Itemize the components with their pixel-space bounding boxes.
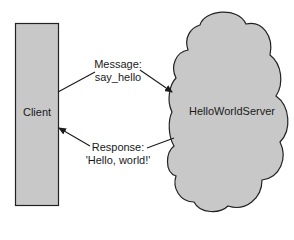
client-label-text: Client bbox=[23, 106, 51, 118]
server-label: HelloWorldServer bbox=[180, 105, 284, 118]
request-label-line2: say_hello bbox=[88, 71, 148, 84]
request-label-line1: Message: bbox=[88, 58, 148, 71]
response-label-line2: 'Hello, world!' bbox=[82, 154, 154, 167]
server-label-text: HelloWorldServer bbox=[189, 105, 275, 117]
client-label: Client bbox=[15, 106, 59, 119]
response-label: Response: 'Hello, world!' bbox=[82, 141, 154, 167]
response-label-line1: Response: bbox=[82, 141, 154, 154]
request-label: Message: say_hello bbox=[88, 58, 148, 84]
